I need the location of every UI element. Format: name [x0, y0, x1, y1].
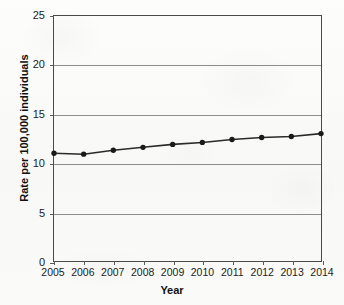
y-tick-mark-5: [50, 214, 54, 215]
x-tick-label-2008: 2008: [131, 266, 154, 278]
gridline-y-10: [54, 164, 321, 165]
data-point-2014: [318, 131, 323, 136]
x-tick-label-2011: 2011: [221, 266, 244, 278]
data-series-layer: [54, 16, 321, 261]
series-line: [54, 134, 321, 155]
x-tick-mark-2006: [84, 261, 85, 265]
x-tick-mark-2009: [174, 261, 175, 265]
x-tick-mark-2013: [293, 261, 294, 265]
x-tick-mark-2010: [203, 261, 204, 265]
chart-page: 0510152025 20052006200720082009201020112…: [0, 0, 344, 305]
gridline-y-5: [54, 214, 321, 215]
x-tick-label-2014: 2014: [310, 266, 333, 278]
x-axis-title: Year: [0, 284, 344, 296]
data-point-2011: [229, 137, 234, 142]
data-point-2008: [140, 145, 145, 150]
y-tick-mark-25: [50, 16, 54, 17]
data-point-2009: [170, 142, 175, 147]
x-tick-label-2007: 2007: [101, 266, 124, 278]
x-tick-label-2006: 2006: [71, 266, 94, 278]
x-tick-mark-2012: [263, 261, 264, 265]
data-point-2006: [81, 152, 86, 157]
data-point-2012: [259, 135, 264, 140]
y-tick-label-25: 25: [0, 9, 45, 21]
data-point-2013: [289, 134, 294, 139]
y-tick-mark-10: [50, 164, 54, 165]
plot-area: [53, 15, 322, 262]
x-tick-label-2012: 2012: [251, 266, 274, 278]
data-point-2010: [200, 140, 205, 145]
gridline-y-15: [54, 115, 321, 116]
y-tick-label-0: 0: [0, 256, 45, 268]
data-point-2005: [51, 151, 56, 156]
x-tick-mark-2007: [114, 261, 115, 265]
gridline-y-20: [54, 65, 321, 66]
y-axis-title: Rate per 100,000 individuals: [18, 28, 30, 228]
x-tick-label-2010: 2010: [191, 266, 214, 278]
data-point-2007: [111, 148, 116, 153]
x-tick-label-2005: 2005: [41, 266, 64, 278]
x-tick-mark-2011: [233, 261, 234, 265]
x-tick-mark-2008: [144, 261, 145, 265]
x-tick-label-2009: 2009: [161, 266, 184, 278]
y-tick-mark-20: [50, 65, 54, 66]
x-tick-label-2013: 2013: [280, 266, 303, 278]
y-tick-mark-15: [50, 115, 54, 116]
x-tick-mark-2005: [54, 261, 55, 265]
x-tick-mark-2014: [323, 261, 324, 265]
